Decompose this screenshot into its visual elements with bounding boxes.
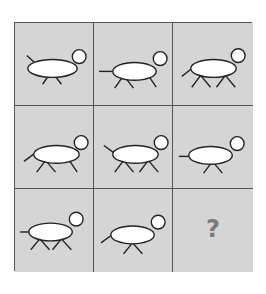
creature-icon: [15, 23, 93, 105]
cell-r2-c3: [173, 106, 253, 189]
cell-r3-c2: [94, 189, 173, 272]
puzzle-grid: ?: [14, 22, 252, 271]
creature-icon: [94, 23, 172, 105]
cell-r1-c3: [173, 23, 253, 106]
cell-r3-c3-missing[interactable]: ?: [173, 189, 253, 272]
cell-r3-c1: [15, 189, 94, 272]
creature-icon: [15, 189, 93, 272]
creature-icon: [15, 106, 93, 188]
tail-down: [101, 235, 112, 243]
cell-r1-c1: [15, 23, 94, 106]
creature-icon: [94, 106, 172, 188]
cell-r2-c1: [15, 106, 94, 189]
question-mark: ?: [173, 215, 253, 243]
creature-icon: [173, 23, 253, 105]
cell-r1-c2: [94, 23, 173, 106]
creature-icon: [173, 106, 253, 188]
cell-r2-c2: [94, 106, 173, 189]
creature-icon: [94, 189, 172, 272]
